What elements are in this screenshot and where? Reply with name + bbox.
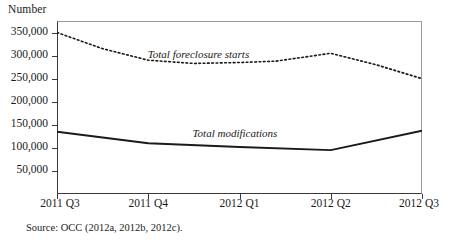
x-axis-tick-label: 2012 Q2 bbox=[311, 197, 351, 209]
y-axis-title: Number bbox=[8, 3, 47, 15]
y-axis-tick-mark bbox=[52, 102, 57, 103]
y-axis-tick-mark bbox=[52, 79, 57, 80]
y-axis-tick-label: 150,000 bbox=[0, 117, 48, 129]
y-axis-tick-label: 250,000 bbox=[0, 71, 48, 83]
y-axis-tick-label: 300,000 bbox=[0, 48, 48, 60]
x-axis-tick-label: 2011 Q3 bbox=[40, 197, 80, 209]
y-axis-tick-mark bbox=[52, 125, 57, 126]
y-axis-tick-label: 200,000 bbox=[0, 94, 48, 106]
figure-foreclosure-starts-and-modifications: Number 50,000100,000150,000200,000250,00… bbox=[0, 0, 451, 243]
x-axis-tick-label: 2012 Q1 bbox=[220, 197, 260, 209]
y-axis-tick-label: 100,000 bbox=[0, 140, 48, 152]
y-axis-tick-label: 350,000 bbox=[0, 25, 48, 37]
source-note: Source: OCC (2012a, 2012b, 2012c). bbox=[26, 222, 183, 233]
y-axis-tick-label: 50,000 bbox=[0, 163, 48, 175]
series-label-total-foreclosure-starts: Total foreclosure starts bbox=[148, 48, 249, 60]
x-axis-tick-label: 2012 Q3 bbox=[399, 197, 439, 209]
y-axis-tick-mark bbox=[52, 56, 57, 57]
y-axis-tick-mark bbox=[52, 33, 57, 34]
y-axis-tick-mark bbox=[52, 171, 57, 172]
series-label-total-modifications: Total modifications bbox=[193, 127, 278, 139]
x-axis-tick-label: 2011 Q4 bbox=[128, 197, 168, 209]
y-axis-tick-mark bbox=[52, 148, 57, 149]
